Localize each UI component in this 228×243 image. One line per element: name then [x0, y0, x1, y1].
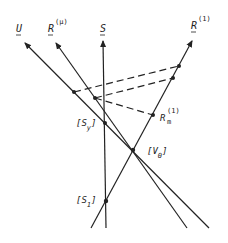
svg-text:R: R — [160, 113, 166, 123]
label-r-1: R (1) — [191, 15, 211, 32]
label-v-0: [V0] — [147, 146, 167, 160]
point-dot — [177, 64, 181, 68]
label-u: U — [16, 23, 23, 35]
vector-u-line — [25, 43, 209, 228]
svg-text:(1): (1) — [198, 15, 211, 23]
svg-text:[S1]: [S1] — [76, 195, 96, 209]
label-r-mu: R (μ) — [48, 18, 68, 35]
label-s-1: [S1] — [76, 195, 96, 209]
svg-text:m: m — [167, 118, 171, 126]
svg-text:R: R — [48, 23, 54, 34]
point-s-1 — [104, 199, 108, 203]
point-s-y — [103, 121, 107, 125]
point-dot — [72, 90, 76, 94]
svg-text:R: R — [191, 20, 197, 31]
svg-text:(1): (1) — [167, 107, 180, 115]
point-v-0 — [131, 148, 135, 152]
svg-text:[V0]: [V0] — [147, 146, 167, 160]
dashed-line-upper — [74, 66, 179, 92]
svg-text:[Sy]: [Sy] — [76, 118, 96, 132]
label-r-m: R (1) m — [160, 107, 180, 126]
svg-text:(μ): (μ) — [55, 18, 68, 26]
svg-text:S: S — [100, 23, 106, 34]
point-dot — [171, 76, 175, 80]
point-r-m — [151, 113, 155, 117]
label-s: S — [100, 23, 106, 35]
svg-text:U: U — [16, 23, 23, 34]
dashed-line-middle — [95, 78, 173, 98]
label-s-y: [Sy] — [76, 118, 96, 132]
point-dot — [93, 96, 97, 100]
vector-diagram: U R (μ) S R (1) [Sy] [V0] [S1] R (1) m — [0, 0, 228, 243]
